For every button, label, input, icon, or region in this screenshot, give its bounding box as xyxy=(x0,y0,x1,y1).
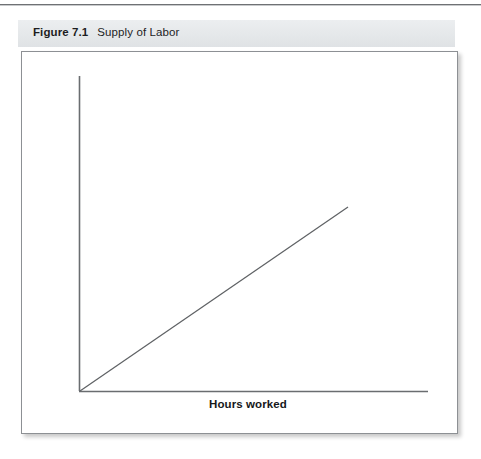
figure-caption: Figure 7.1Supply of Labor xyxy=(33,26,179,38)
figure-title-label: Supply of Labor xyxy=(97,26,179,38)
supply-curve-line xyxy=(80,207,348,391)
figure-panel: Wages per hour Hours worked xyxy=(21,51,458,434)
x-axis-label: Hours worked xyxy=(138,398,358,410)
figure-number-label: Figure 7.1 xyxy=(33,26,88,38)
supply-of-labor-chart xyxy=(22,52,459,435)
page-top-rule-shadow xyxy=(0,5,481,6)
plot-area: Wages per hour Hours worked xyxy=(22,52,459,435)
